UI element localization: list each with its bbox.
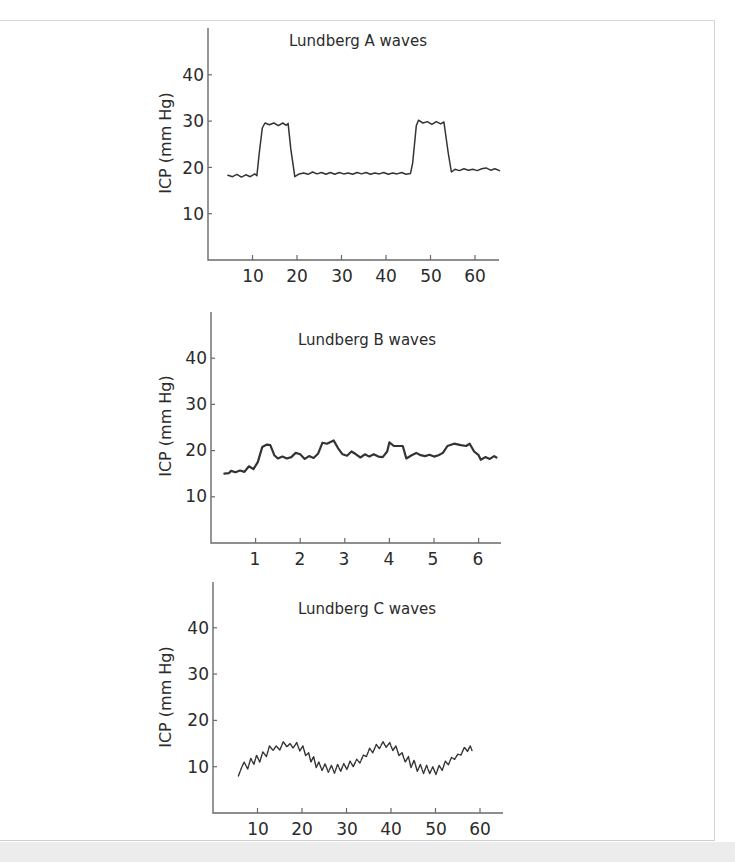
y-tick-label: 40 xyxy=(187,618,209,638)
y-tick-label: 30 xyxy=(187,664,209,684)
y-axis-ticks: 10 20 30 40 xyxy=(187,618,209,777)
y-tick-label: 10 xyxy=(187,757,209,777)
x-axis-ticks: 10 20 30 40 50 60 xyxy=(247,819,491,839)
y-axis-label: ICP (mm Hg) xyxy=(156,646,175,748)
x-tick-label: 20 xyxy=(291,819,313,839)
chart-title: Lundberg C waves xyxy=(298,600,436,618)
x-tick-label: 40 xyxy=(380,819,402,839)
x-tick-label: 10 xyxy=(247,819,269,839)
x-tick-label: 30 xyxy=(336,819,358,839)
icp-trace xyxy=(238,742,472,776)
y-tick-label: 20 xyxy=(187,710,209,730)
chart-lundberg-c: Lundberg C waves ICP (mm Hg) 10 20 30 40… xyxy=(0,0,735,862)
x-tick-label: 50 xyxy=(425,819,447,839)
x-tick-label: 60 xyxy=(469,819,491,839)
